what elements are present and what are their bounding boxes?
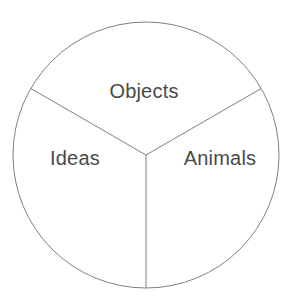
sector-label-animals: Animals	[184, 147, 257, 169]
pie-diagram-container: Objects Animals Ideas	[0, 0, 293, 304]
sector-label-ideas: Ideas	[50, 147, 100, 169]
sector-label-objects: Objects	[109, 80, 178, 102]
pie-chart-svg: Objects Animals Ideas	[0, 0, 293, 304]
